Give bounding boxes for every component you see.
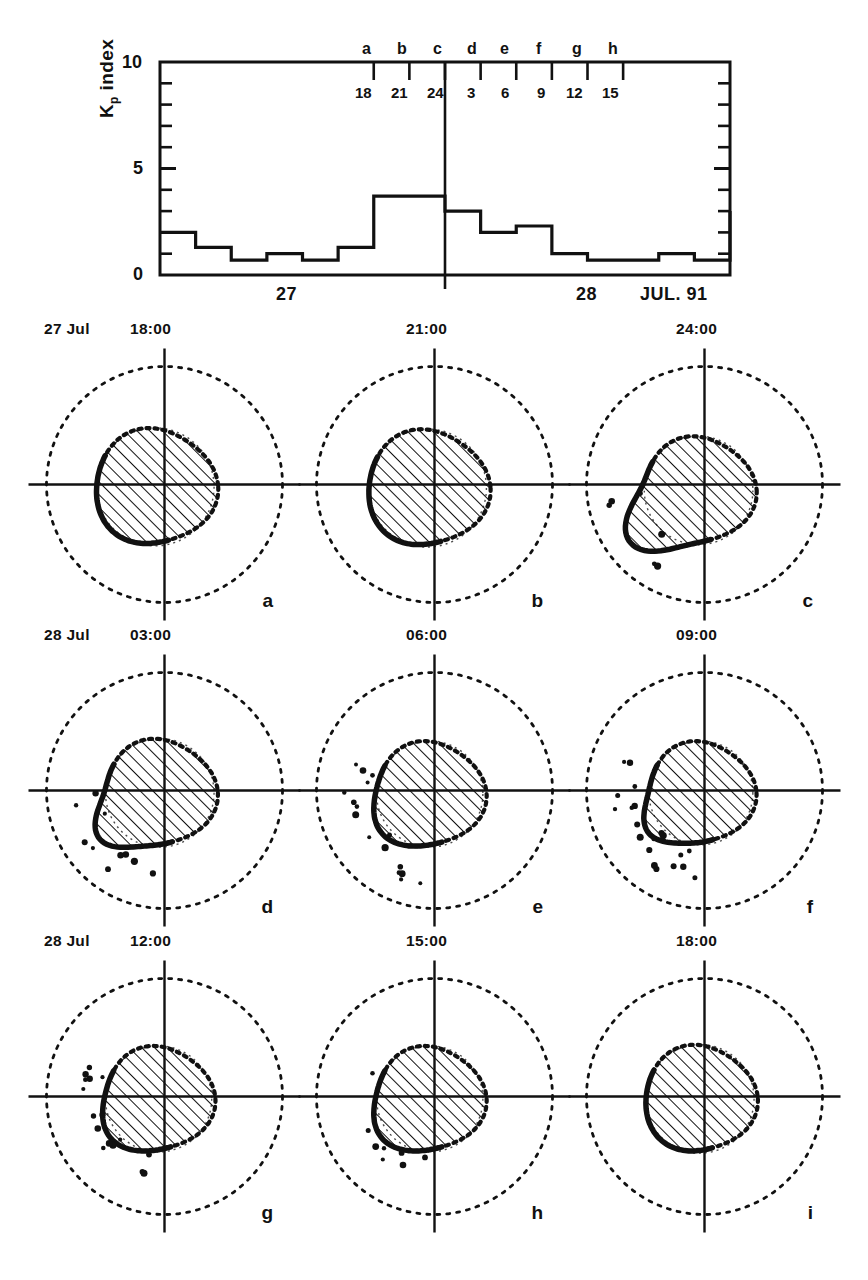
plot-row-1: 27 Jul 18:00 a 21:00 b 24:00 c	[0, 318, 868, 628]
plot-time-d: 03:00	[130, 626, 171, 644]
plot-time-c: 24:00	[676, 320, 717, 338]
oval-plot-i	[560, 952, 849, 1241]
plot-cell-a: 27 Jul 18:00 a	[20, 318, 309, 628]
plot-cell-h: 15:00 h	[290, 930, 579, 1240]
kp-chart-marker-ticks	[374, 62, 623, 80]
plot-title-c: 24:00	[560, 320, 849, 342]
plot-cell-e: 06:00 e	[290, 624, 579, 934]
plot-title-g: 28 Jul 12:00	[20, 932, 309, 954]
plot-cell-c: 24:00 c	[560, 318, 849, 628]
plot-time-i: 18:00	[676, 932, 717, 950]
plot-title-i: 18:00	[560, 932, 849, 954]
oval-plot-c	[560, 340, 849, 629]
figure-root: Kp index 10 5 0 27 28 JUL. 91 a b c d e …	[0, 0, 868, 1280]
plot-time-g: 12:00	[130, 932, 171, 950]
oval-plot-f	[560, 646, 849, 935]
plot-title-e: 06:00	[290, 626, 579, 648]
plot-title-d: 28 Jul 03:00	[20, 626, 309, 648]
oval-plot-d	[20, 646, 309, 935]
plot-time-f: 09:00	[676, 626, 717, 644]
plot-title-h: 15:00	[290, 932, 579, 954]
plot-cell-g: 28 Jul 12:00 g	[20, 930, 309, 1240]
plot-cell-i: 18:00 i	[560, 930, 849, 1240]
plot-title-f: 09:00	[560, 626, 849, 648]
plot-date-g: 28 Jul	[44, 932, 90, 950]
oval-plot-e	[290, 646, 579, 935]
plot-title-b: 21:00	[290, 320, 579, 342]
plot-time-a: 18:00	[130, 320, 171, 338]
oval-plot-g	[20, 952, 309, 1241]
plot-time-e: 06:00	[406, 626, 447, 644]
plot-date-a: 27 Jul	[44, 320, 90, 338]
kp-index-chart: Kp index 10 5 0 27 28 JUL. 91 a b c d e …	[0, 0, 868, 315]
plot-time-b: 21:00	[406, 320, 447, 338]
plot-date-d: 28 Jul	[44, 626, 90, 644]
oval-plot-a	[20, 340, 309, 629]
oval-plot-b	[290, 340, 579, 629]
oval-plot-grid: 27 Jul 18:00 a 21:00 b 24:00 c	[0, 318, 868, 1280]
plot-cell-f: 09:00 f	[560, 624, 849, 934]
plot-cell-d: 28 Jul 03:00 d	[20, 624, 309, 934]
plot-cell-b: 21:00 b	[290, 318, 579, 628]
kp-chart-svg	[0, 0, 868, 315]
plot-title-a: 27 Jul 18:00	[20, 320, 309, 342]
plot-row-3: 28 Jul 12:00 g 15:00 h 18:00 i	[0, 930, 868, 1240]
oval-plot-h	[290, 952, 579, 1241]
plot-row-2: 28 Jul 03:00 d 06:00 e 09:00 f	[0, 624, 868, 934]
plot-time-h: 15:00	[406, 932, 447, 950]
